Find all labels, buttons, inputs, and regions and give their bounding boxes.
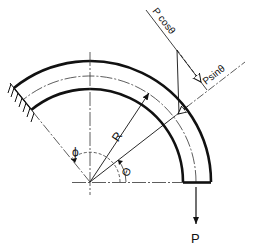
load-label: P xyxy=(191,231,200,246)
theta-label: Θ xyxy=(119,165,133,178)
diagram-canvas: R P cosθ Psinθ ϕ Θ P xyxy=(0,0,253,248)
radius-label: R xyxy=(109,129,126,144)
p-sin-label: Psinθ xyxy=(200,62,227,86)
curved-beam-diagram: R P cosθ Psinθ ϕ Θ P xyxy=(0,0,253,248)
p-cos-arrow xyxy=(177,50,179,114)
load-point-radial xyxy=(90,116,175,182)
p-sin-arrow xyxy=(177,50,201,82)
theta-arrow-icon xyxy=(118,160,123,165)
fixed-support-hatch-icon xyxy=(8,83,34,122)
p-cos-line xyxy=(146,10,207,90)
fixed-end-radial xyxy=(33,112,90,182)
phi-label: ϕ xyxy=(72,145,79,159)
